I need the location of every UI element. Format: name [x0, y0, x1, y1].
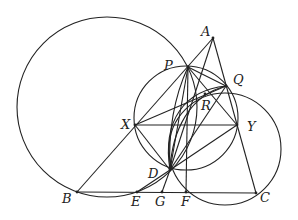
point-R [204, 93, 207, 96]
label-C: C [260, 190, 270, 205]
label-G: G [155, 194, 165, 209]
segment-AC [213, 38, 256, 193]
label-B: B [61, 191, 72, 206]
label-P: P [163, 58, 173, 73]
point-D [169, 169, 172, 172]
point-E [136, 191, 139, 194]
label-E: E [130, 194, 141, 209]
segment-XD [135, 125, 170, 170]
label-D: D [147, 166, 159, 181]
label-R: R [200, 98, 211, 113]
segment-QD [170, 86, 226, 170]
label-Y: Y [247, 119, 257, 134]
segment-YD [170, 125, 237, 170]
segment-PF [186, 67, 188, 192]
point-P [187, 66, 190, 69]
label-A: A [200, 24, 210, 39]
inner-arcs [168, 67, 226, 170]
point-X [134, 124, 137, 127]
segment-AB [77, 38, 213, 192]
label-F: F [180, 194, 191, 209]
point-A [212, 37, 215, 40]
point-F [185, 191, 188, 194]
point-B [76, 191, 79, 194]
point-G [161, 191, 164, 194]
segment-BC [77, 192, 256, 193]
point-C [255, 192, 258, 195]
label-X: X [120, 117, 131, 132]
label-Q: Q [233, 72, 244, 87]
point-Y [236, 124, 239, 127]
geometry-diagram: APQRXYDBEGFC [0, 0, 298, 220]
point-Q [225, 85, 228, 88]
